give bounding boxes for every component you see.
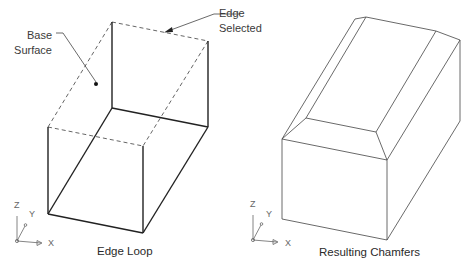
axis-z-label: Z	[250, 200, 256, 209]
edge-selected-label-line2: Selected	[219, 22, 262, 35]
axis-z-label: Z	[14, 201, 20, 210]
axis-x-label: X	[48, 239, 54, 248]
axis-triad-left	[15, 216, 42, 246]
axis-triad-right	[251, 215, 278, 245]
chamfered-box	[282, 17, 460, 240]
edge-loop-box	[48, 14, 240, 233]
caption-resulting-chamfers: Resulting Chamfers	[319, 246, 420, 258]
diagram-canvas	[0, 0, 476, 272]
base-surface-leader	[56, 33, 96, 82]
axis-x-label: X	[285, 239, 291, 248]
axis-y-label: Y	[29, 210, 35, 219]
caption-edge-loop: Edge Loop	[97, 245, 153, 257]
base-surface-label-line1: Base	[24, 29, 52, 42]
base-surface-label-line2: Surface	[13, 44, 52, 57]
base-surface-point-icon	[94, 82, 98, 86]
edge-selected-label-line1: Edge	[219, 7, 245, 20]
arrowhead-icon	[164, 27, 173, 33]
axis-y-label: Y	[266, 210, 272, 219]
